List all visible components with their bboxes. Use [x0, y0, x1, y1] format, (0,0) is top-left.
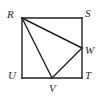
square-rstu — [22, 18, 82, 78]
vertex-label-t: T — [85, 70, 91, 81]
vertex-label-v: V — [49, 83, 56, 94]
segment-rw — [22, 18, 82, 48]
vertex-label-w: W — [85, 45, 94, 56]
segment-vw — [52, 48, 82, 78]
vertex-label-s: S — [85, 8, 91, 19]
geometry-figure: R S W U T V — [0, 0, 101, 98]
triangle-rvw — [22, 18, 82, 78]
segment-rv — [22, 18, 52, 78]
vertex-label-r: R — [7, 9, 14, 20]
vertex-label-u: U — [8, 70, 16, 81]
